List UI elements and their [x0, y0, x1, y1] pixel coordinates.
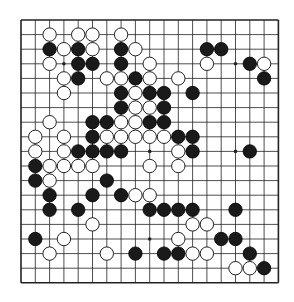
white-stone[interactable]	[43, 174, 56, 187]
white-stone[interactable]	[86, 218, 99, 231]
black-stone[interactable]	[186, 86, 199, 99]
black-stone[interactable]	[72, 72, 85, 85]
black-stone[interactable]	[43, 43, 56, 56]
black-stone[interactable]	[200, 43, 213, 56]
black-stone[interactable]	[186, 145, 199, 158]
black-stone[interactable]	[72, 203, 85, 216]
black-stone[interactable]	[157, 101, 170, 114]
black-stone[interactable]	[186, 130, 199, 143]
black-stone[interactable]	[72, 57, 85, 70]
white-stone[interactable]	[57, 232, 70, 245]
white-stone[interactable]	[29, 130, 42, 143]
white-stone[interactable]	[72, 28, 85, 41]
white-stone[interactable]	[143, 130, 156, 143]
black-stone[interactable]	[157, 247, 170, 260]
white-stone[interactable]	[57, 72, 70, 85]
white-stone[interactable]	[57, 130, 70, 143]
white-stone[interactable]	[143, 101, 156, 114]
black-stone[interactable]	[229, 232, 242, 245]
white-stone[interactable]	[86, 43, 99, 56]
white-stone[interactable]	[143, 159, 156, 172]
white-stone[interactable]	[200, 247, 213, 260]
black-stone[interactable]	[114, 189, 127, 202]
black-stone[interactable]	[43, 203, 56, 216]
white-stone[interactable]	[243, 262, 256, 275]
white-stone[interactable]	[172, 159, 185, 172]
black-stone[interactable]	[129, 72, 142, 85]
black-stone[interactable]	[100, 116, 113, 129]
white-stone[interactable]	[129, 101, 142, 114]
black-stone[interactable]	[215, 232, 228, 245]
white-stone[interactable]	[186, 218, 199, 231]
white-stone[interactable]	[43, 57, 56, 70]
white-stone[interactable]	[129, 43, 142, 56]
white-stone[interactable]	[143, 72, 156, 85]
white-stone[interactable]	[43, 116, 56, 129]
black-stone[interactable]	[72, 43, 85, 56]
black-stone[interactable]	[86, 189, 99, 202]
black-stone[interactable]	[172, 130, 185, 143]
black-stone[interactable]	[215, 43, 228, 56]
black-stone[interactable]	[86, 57, 99, 70]
white-stone[interactable]	[129, 86, 142, 99]
black-stone[interactable]	[114, 86, 127, 99]
white-stone[interactable]	[29, 145, 42, 158]
white-stone[interactable]	[86, 28, 99, 41]
black-stone[interactable]	[186, 203, 199, 216]
black-stone[interactable]	[243, 145, 256, 158]
black-stone[interactable]	[100, 174, 113, 187]
black-stone[interactable]	[114, 43, 127, 56]
white-stone[interactable]	[172, 232, 185, 245]
black-stone[interactable]	[243, 247, 256, 260]
black-stone[interactable]	[257, 72, 270, 85]
black-stone[interactable]	[157, 86, 170, 99]
white-stone[interactable]	[229, 262, 242, 275]
white-stone[interactable]	[114, 116, 127, 129]
black-stone[interactable]	[172, 203, 185, 216]
black-stone[interactable]	[100, 145, 113, 158]
black-stone[interactable]	[157, 203, 170, 216]
black-stone[interactable]	[172, 247, 185, 260]
white-stone[interactable]	[157, 130, 170, 143]
white-stone[interactable]	[72, 159, 85, 172]
white-stone[interactable]	[200, 218, 213, 231]
white-stone[interactable]	[143, 57, 156, 70]
black-stone[interactable]	[29, 232, 42, 245]
white-stone[interactable]	[100, 72, 113, 85]
black-stone[interactable]	[114, 101, 127, 114]
white-stone[interactable]	[57, 159, 70, 172]
white-stone[interactable]	[100, 130, 113, 143]
black-stone[interactable]	[143, 86, 156, 99]
white-stone[interactable]	[172, 145, 185, 158]
black-stone[interactable]	[114, 145, 127, 158]
black-stone[interactable]	[86, 145, 99, 158]
white-stone[interactable]	[143, 189, 156, 202]
black-stone[interactable]	[243, 57, 256, 70]
black-stone[interactable]	[29, 174, 42, 187]
black-stone[interactable]	[143, 203, 156, 216]
white-stone[interactable]	[57, 43, 70, 56]
white-stone[interactable]	[57, 86, 70, 99]
black-stone[interactable]	[257, 262, 270, 275]
white-stone[interactable]	[129, 189, 142, 202]
white-stone[interactable]	[172, 72, 185, 85]
black-stone[interactable]	[114, 57, 127, 70]
black-stone[interactable]	[86, 116, 99, 129]
white-stone[interactable]	[129, 130, 142, 143]
white-stone[interactable]	[86, 159, 99, 172]
white-stone[interactable]	[114, 72, 127, 85]
white-stone[interactable]	[43, 247, 56, 260]
black-stone[interactable]	[143, 116, 156, 129]
black-stone[interactable]	[29, 159, 42, 172]
black-stone[interactable]	[229, 203, 242, 216]
go-board[interactable]	[0, 0, 294, 302]
white-stone[interactable]	[100, 247, 113, 260]
white-stone[interactable]	[114, 28, 127, 41]
white-stone[interactable]	[129, 116, 142, 129]
white-stone[interactable]	[57, 145, 70, 158]
black-stone[interactable]	[86, 130, 99, 143]
white-stone[interactable]	[200, 57, 213, 70]
white-stone[interactable]	[186, 247, 199, 260]
black-stone[interactable]	[129, 247, 142, 260]
black-stone[interactable]	[43, 189, 56, 202]
